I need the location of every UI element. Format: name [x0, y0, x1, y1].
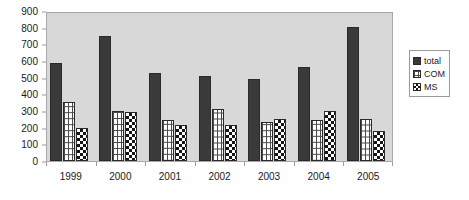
- legend-swatch-ms-icon: [413, 83, 421, 91]
- legend-swatch-com-icon: [413, 70, 421, 78]
- chart-legend: totalCOMMS: [409, 50, 450, 97]
- y-axis-tick-label: 0: [32, 157, 38, 167]
- y-axis-tick-label: 700: [21, 40, 38, 50]
- x-axis-label-2004: 2004: [308, 171, 330, 182]
- x-axis-tick-mark: [195, 162, 196, 166]
- bar-com-2003: [261, 122, 273, 161]
- x-axis-label-2002: 2002: [208, 171, 230, 182]
- legend-label: MS: [424, 82, 438, 92]
- x-axis-tick-mark: [46, 162, 47, 166]
- y-axis-tick-label: 400: [21, 90, 38, 100]
- bar-total-2001: [149, 73, 161, 161]
- bar-com-2004: [311, 120, 323, 161]
- bar-ms-2003: [274, 119, 286, 162]
- bar-com-2001: [162, 120, 174, 161]
- x-axis: 1999200020012002200320042005: [46, 162, 393, 192]
- plot-bars-container: [47, 13, 392, 161]
- bar-com-2000: [112, 111, 124, 161]
- bar-total-2005: [347, 27, 359, 161]
- plot-area: [46, 12, 393, 162]
- x-axis-tick-mark: [244, 162, 245, 166]
- bar-ms-2004: [324, 111, 336, 161]
- bar-total-2002: [199, 76, 211, 161]
- x-axis-tick-mark: [392, 162, 393, 166]
- x-axis-tick-mark: [343, 162, 344, 166]
- y-axis-tick-label: 800: [21, 24, 38, 34]
- bar-chart: 9008007006005004003002001000 19992000200…: [0, 0, 469, 200]
- bar-ms-2000: [125, 112, 137, 161]
- legend-item-com[interactable]: COM: [413, 67, 445, 80]
- bar-group: [149, 13, 187, 161]
- bar-com-2002: [212, 109, 224, 162]
- x-axis-label-2003: 2003: [258, 171, 280, 182]
- y-axis-tick-label: 600: [21, 57, 38, 67]
- bar-total-2004: [298, 67, 310, 161]
- legend-label: COM: [424, 69, 445, 79]
- bar-group: [248, 13, 286, 161]
- bar-ms-2001: [175, 125, 187, 161]
- y-axis-tick-label: 200: [21, 124, 38, 134]
- x-axis-label-1999: 1999: [60, 171, 82, 182]
- bar-group: [199, 13, 237, 161]
- bar-total-2000: [99, 36, 111, 161]
- y-axis-tick-label: 500: [21, 74, 38, 84]
- bar-ms-2002: [225, 125, 237, 161]
- legend-swatch-total-icon: [413, 57, 421, 65]
- x-axis-tick-mark: [294, 162, 295, 166]
- bar-group: [298, 13, 336, 161]
- x-axis-label-2005: 2005: [357, 171, 379, 182]
- y-axis-tick-label: 900: [21, 7, 38, 17]
- bar-total-1999: [50, 63, 62, 161]
- y-axis-tick-label: 100: [21, 140, 38, 150]
- bar-ms-1999: [76, 128, 88, 161]
- bar-group: [347, 13, 385, 161]
- bar-group: [50, 13, 88, 161]
- y-axis: 9008007006005004003002001000: [0, 12, 46, 162]
- legend-label: total: [424, 56, 441, 66]
- bar-total-2003: [248, 79, 260, 162]
- legend-item-total[interactable]: total: [413, 54, 445, 67]
- x-axis-tick-mark: [96, 162, 97, 166]
- bar-com-2005: [360, 119, 372, 162]
- x-axis-tick-mark: [145, 162, 146, 166]
- x-axis-label-2001: 2001: [159, 171, 181, 182]
- x-axis-label-2000: 2000: [109, 171, 131, 182]
- bar-com-1999: [63, 102, 75, 161]
- bar-group: [99, 13, 137, 161]
- y-axis-tick-label: 300: [21, 107, 38, 117]
- bar-ms-2005: [373, 131, 385, 161]
- legend-item-ms[interactable]: MS: [413, 80, 445, 93]
